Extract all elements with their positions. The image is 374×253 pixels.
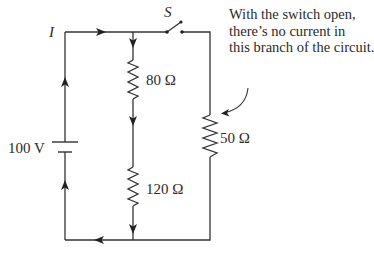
resistor-120-zigzag [128,167,138,206]
switch-contact-top [179,20,182,23]
annotation-arrowhead-icon [221,109,230,117]
switch-contact-right [180,30,184,34]
annotation-line: there’s no current in [229,23,374,40]
switch-label: S [164,4,172,21]
top-wire-right [182,32,210,115]
resistor-50-label: 50 Ω [220,130,250,147]
battery-label: 100 V [8,140,45,157]
resistor-80-zigzag [128,60,138,99]
resistor-80-label: 80 Ω [146,72,176,89]
annotation-line: With the switch open, [229,6,374,23]
annotation-arrow-curve [224,88,248,113]
switch-blade [167,22,181,32]
annotation-note: With the switch open, there’s no current… [229,6,374,56]
right-wire-bottom [65,157,210,240]
resistor-120-label: 120 Ω [146,181,183,198]
current-label: I [49,24,54,41]
annotation-line: this branch of the circuit. [229,39,374,56]
resistor-50-zigzag [203,115,217,157]
switch-contact-left [165,30,169,34]
